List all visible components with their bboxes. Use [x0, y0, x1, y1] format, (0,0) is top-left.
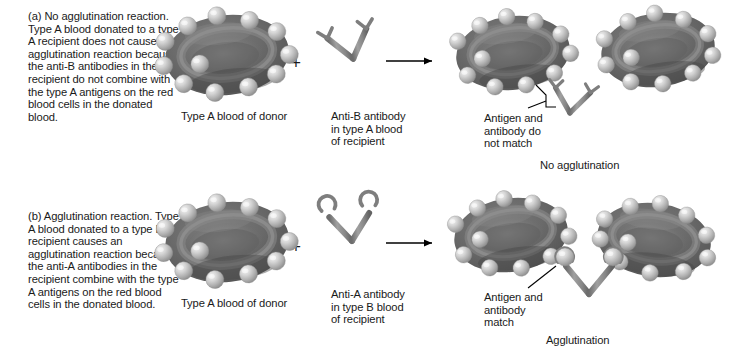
panel-a-unbound-antibody: [541, 79, 599, 149]
panel-b-plus-sign: +: [291, 238, 301, 255]
panel-b-reaction-arrow: [386, 240, 432, 247]
panel-a-mismatch-bracket: [528, 85, 556, 108]
panel-b-cell-label: Type A blood of donor: [181, 297, 287, 310]
panel-a-mismatch-label: Antigen and antibody do not match: [484, 112, 543, 150]
panel-a-antibody: [318, 18, 390, 101]
figure-canvas: (a) No agglutination reaction. Type A bl…: [0, 0, 741, 353]
panel-a-reaction-arrow: [386, 58, 432, 65]
panel-b-match-leader: [528, 266, 556, 288]
panel-b-bridging-antibody: [556, 248, 622, 330]
panel-a-cell-label: Type A blood of donor: [181, 110, 287, 123]
panel-a-caption: (a) No agglutination reaction. Type A bl…: [28, 10, 180, 123]
panel-b-agglutinated-cell-right: [588, 188, 723, 289]
panel-b-antibody-label: Anti-A antibody in type B blood of recip…: [331, 288, 405, 326]
panel-b-result-label: Agglutination: [546, 334, 609, 347]
panel-a-plus-sign: +: [291, 54, 301, 71]
panel-a-antibody-label: Anti-B antibody in type A blood of recip…: [331, 110, 405, 148]
panel-a-result-cell-left: [446, 0, 583, 101]
panel-b-caption: (b) Agglutination reaction. Type A blood…: [28, 210, 180, 311]
panel-b-agglutinated-cell-left: [444, 181, 582, 285]
panel-a-result-cell-right: [591, 0, 725, 100]
panel-b-match-label: Antigen and antibody match: [484, 291, 543, 329]
panel-a-result-label: No agglutination: [540, 159, 619, 172]
panel-b-antibody: [318, 191, 385, 281]
